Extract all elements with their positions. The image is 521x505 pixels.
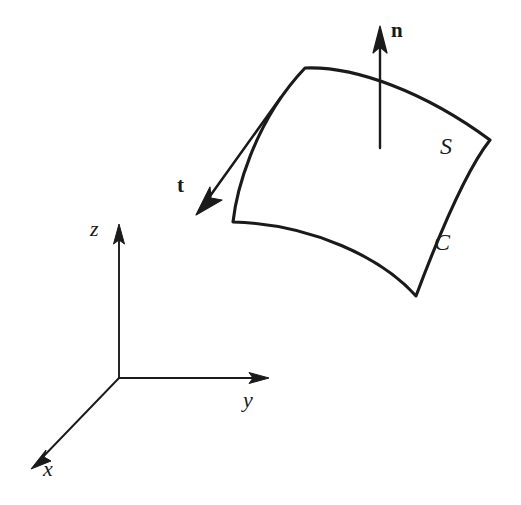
axis-y-arrow — [119, 373, 269, 384]
axis-z-label: z — [90, 218, 99, 240]
surface-label: S — [440, 134, 452, 158]
boundary-curve-label: C — [434, 230, 450, 254]
surface-patch-outline — [233, 68, 490, 296]
axis-y-label: y — [243, 389, 253, 411]
axis-z-arrow — [114, 224, 125, 378]
normal-vector-label: n — [391, 20, 403, 41]
axis-x-label: x — [43, 458, 53, 480]
tangent-vector-label: t — [177, 175, 184, 196]
normal-vector-arrow — [373, 26, 387, 148]
figure-canvas: n t S C z y x — [0, 0, 521, 505]
